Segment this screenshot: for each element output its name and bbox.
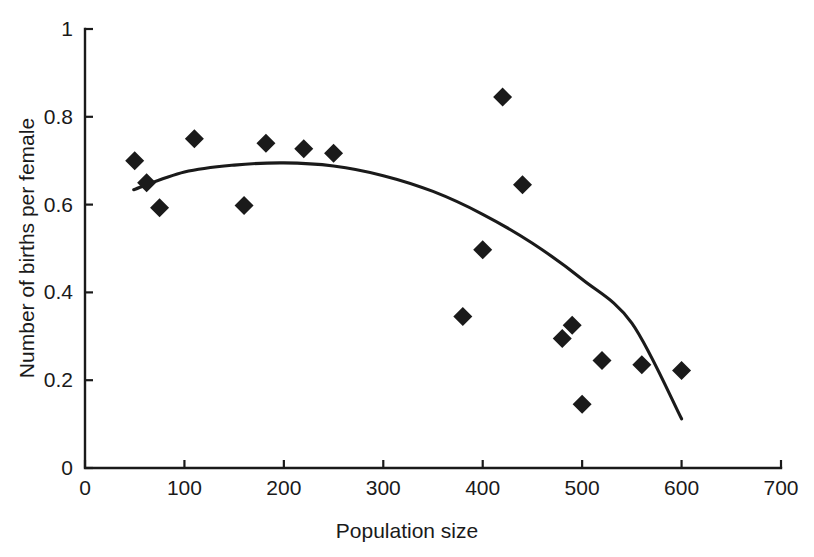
data-point-diamond xyxy=(632,355,651,374)
x-axis-title: Population size xyxy=(336,519,478,542)
x-tick-label: 700 xyxy=(763,476,798,499)
x-tick-label: 300 xyxy=(366,476,401,499)
plot-canvas: 0100200300400500600700 00.20.40.60.81 Po… xyxy=(0,0,814,557)
data-point-diamond xyxy=(473,240,492,259)
data-point-diamond xyxy=(672,361,691,380)
data-point-diamond xyxy=(235,196,254,215)
data-point-diamond xyxy=(453,307,472,326)
scatter-plot-figure: 0100200300400500600700 00.20.40.60.81 Po… xyxy=(0,0,814,557)
data-point-diamond xyxy=(573,395,592,414)
y-tick-label: 0.4 xyxy=(44,280,74,303)
y-tick-label: 0.2 xyxy=(44,368,73,391)
x-tick-label: 600 xyxy=(664,476,699,499)
data-point-diamond xyxy=(563,316,582,335)
fit-curve xyxy=(134,163,682,419)
data-point-diamond xyxy=(185,129,204,148)
y-axis-title: Number of births per female xyxy=(15,118,38,378)
y-tick-labels: 00.20.40.60.81 xyxy=(44,17,74,479)
y-tick-label: 0.6 xyxy=(44,193,73,216)
x-tick-label: 200 xyxy=(266,476,301,499)
axis-frame xyxy=(85,29,781,468)
x-tick-label: 100 xyxy=(167,476,202,499)
x-tick-labels: 0100200300400500600700 xyxy=(79,476,798,499)
data-point-diamond xyxy=(125,151,144,170)
data-point-diamond xyxy=(553,329,572,348)
data-point-diamond xyxy=(593,351,612,370)
y-tick-label: 0.8 xyxy=(44,105,73,128)
data-point-diamond xyxy=(150,198,169,217)
axes xyxy=(85,29,781,468)
data-point-diamond xyxy=(493,88,512,107)
data-point-diamond xyxy=(513,175,532,194)
data-point-diamond xyxy=(324,144,343,163)
data-point-diamond xyxy=(294,139,313,158)
x-tick-label: 0 xyxy=(79,476,91,499)
y-tick-label: 1 xyxy=(61,17,73,40)
y-tick-label: 0 xyxy=(61,456,73,479)
data-point-diamond xyxy=(256,134,275,153)
data-point-diamond xyxy=(137,173,156,192)
data-point-markers xyxy=(125,88,691,414)
x-tick-label: 500 xyxy=(565,476,600,499)
x-tick-label: 400 xyxy=(465,476,500,499)
